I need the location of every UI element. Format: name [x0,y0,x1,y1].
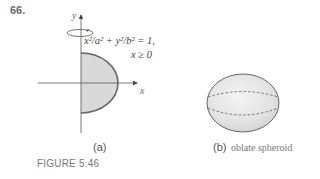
figure-caption: FIGURE 5.46 [37,158,99,169]
panel-a-label: (a) [93,141,106,153]
equation-line-1: x²/a² + y²/b² = 1, [84,35,155,46]
panel-b-caption: oblate spheroid [231,142,292,153]
oblate-spheroid [207,74,279,132]
x-axis-label: x [140,85,144,96]
equation-line-2: x ≥ 0 [131,49,152,60]
panel-a-graph [38,15,137,133]
panel-b-label: (b) [213,141,226,153]
y-axis-label: y [72,10,76,21]
